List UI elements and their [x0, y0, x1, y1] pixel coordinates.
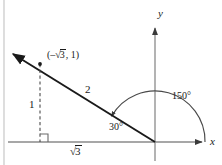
angle-arc-150 [112, 91, 205, 142]
x-axis-label: x [210, 136, 215, 147]
right-angle-marker [40, 134, 48, 142]
angle-label-150: 150° [172, 91, 191, 101]
point-y-value: 1 [71, 49, 76, 60]
vertical-leg-label: 1 [29, 99, 35, 110]
trigonometry-figure: y x (–√3, 1) 2 1 √3 30° 150° [0, 0, 222, 165]
point-coordinate-label: (–√3, 1) [47, 49, 79, 61]
base-radicand: 3 [75, 145, 82, 158]
hypotenuse-length-label: 2 [85, 84, 91, 95]
y-axis-label: y [158, 8, 163, 19]
plotted-point-dot [38, 62, 42, 66]
figure-canvas [0, 0, 222, 165]
angle-label-30: 30° [109, 122, 123, 132]
base-leg-label: √3 [70, 145, 82, 158]
